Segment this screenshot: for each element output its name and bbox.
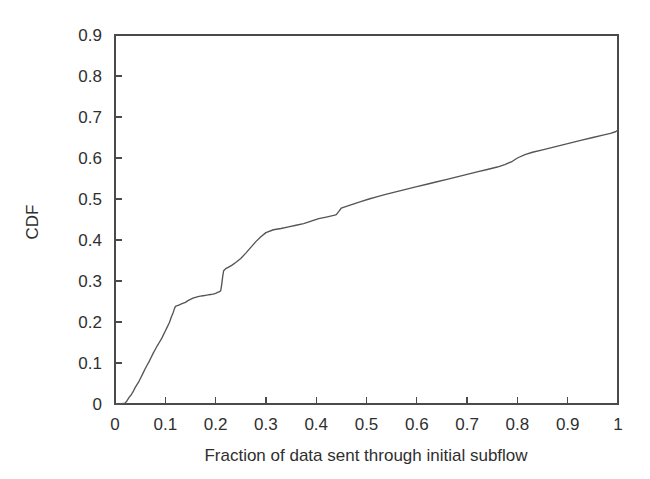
x-tick-label: 0.3 xyxy=(254,415,278,434)
y-tick-label: 0.2 xyxy=(78,313,102,332)
y-tick-label: 0.4 xyxy=(78,231,102,250)
y-tick-label: 0.5 xyxy=(78,190,102,209)
chart-figure: 00.10.20.30.40.50.60.70.80.9 00.10.20.30… xyxy=(0,0,650,479)
x-tick-label: 0.1 xyxy=(153,415,177,434)
y-tick-label: 0.8 xyxy=(78,67,102,86)
y-axis-title: CDF xyxy=(23,205,42,240)
x-tick-label: 0.6 xyxy=(405,415,429,434)
x-tick-label: 0.9 xyxy=(556,415,580,434)
x-axis-title: Fraction of data sent through initial su… xyxy=(204,446,528,465)
cdf-plot: 00.10.20.30.40.50.60.70.80.9 00.10.20.30… xyxy=(0,0,650,479)
x-tick-label: 0.8 xyxy=(506,415,530,434)
x-tick-label: 0.2 xyxy=(204,415,228,434)
x-tick-label: 0.5 xyxy=(355,415,379,434)
y-tick-label: 0.6 xyxy=(78,149,102,168)
y-tick-label: 0.7 xyxy=(78,108,102,127)
x-tick-label: 1 xyxy=(613,415,622,434)
x-tick-label: 0 xyxy=(110,415,119,434)
y-tick-label: 0 xyxy=(93,395,102,414)
x-tick-label: 0.4 xyxy=(304,415,328,434)
y-tick-label: 0.3 xyxy=(78,272,102,291)
y-tick-label: 0.9 xyxy=(78,26,102,45)
x-tick-label: 0.7 xyxy=(455,415,479,434)
y-tick-label: 0.1 xyxy=(78,354,102,373)
